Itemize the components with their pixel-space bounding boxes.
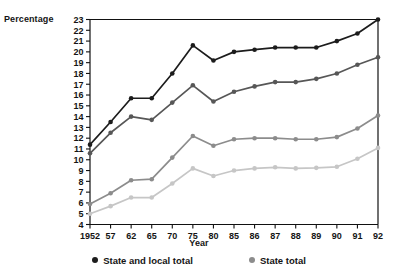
legend-marker-icon [92,257,98,263]
data-point [252,166,257,171]
legend-entry: State total [249,255,306,266]
data-point [149,96,154,101]
data-point [232,50,237,55]
data-point [252,136,257,141]
data-point [129,114,134,119]
data-point [108,130,113,135]
plot-area: 4567891011121314151617181920212223 19525… [0,0,398,269]
line-chart: Percentage 45678910111213141516171819202… [0,0,398,269]
data-point [88,211,93,216]
series-line-0 [90,20,378,145]
data-point [108,204,113,209]
data-point [170,100,175,105]
series-line-2 [90,116,378,204]
svg-text:6: 6 [78,198,83,208]
data-point [252,47,257,52]
data-point [314,137,319,142]
data-point [129,178,134,183]
data-point [355,126,360,131]
data-point [170,155,175,160]
svg-text:7: 7 [78,187,83,197]
data-point [376,55,381,60]
data-point [252,84,257,89]
x-axis-title: Year [0,238,398,248]
legend-label: State and local total [103,255,193,266]
legend-marker-icon [249,257,255,263]
data-point [88,142,93,147]
data-point [191,166,196,171]
data-point [149,118,154,123]
data-point [232,137,237,142]
svg-text:9: 9 [78,166,83,176]
data-point [335,39,340,44]
data-point [232,89,237,94]
svg-text:5: 5 [78,209,83,219]
legend-entry: State and local total [92,255,193,266]
svg-text:15: 15 [73,101,83,111]
data-point [88,151,93,156]
data-point [232,168,237,173]
svg-text:8: 8 [78,177,83,187]
svg-text:22: 22 [73,26,83,36]
data-point [376,146,381,151]
data-point [149,177,154,182]
svg-text:14: 14 [73,112,83,122]
data-point [293,45,298,50]
data-point [273,165,278,170]
data-point [355,31,360,36]
data-point [108,120,113,125]
data-point [149,195,154,200]
data-point [88,202,93,207]
data-point [211,58,216,63]
data-point [314,166,319,171]
data-point [376,17,381,22]
data-point [211,174,216,179]
data-point [211,143,216,148]
svg-text:13: 13 [73,123,83,133]
legend-row: State and local totalState total [0,252,398,268]
data-series-layer [88,17,381,216]
data-point [273,45,278,50]
data-point [293,166,298,171]
svg-text:16: 16 [73,90,83,100]
data-point [314,45,319,50]
svg-text:18: 18 [73,69,83,79]
y-axis-ticks: 4567891011121314151617181920212223 [73,15,90,230]
data-point [314,77,319,82]
data-point [191,83,196,88]
svg-text:11: 11 [74,144,84,154]
data-point [273,136,278,141]
data-point [273,80,278,85]
chart-legend: State and local totalState total [0,252,398,269]
data-point [335,71,340,76]
data-point [129,195,134,200]
data-point [211,99,216,104]
svg-text:17: 17 [73,80,83,90]
data-point [355,63,360,68]
legend-label: State total [260,255,306,266]
data-point [129,96,134,101]
svg-text:12: 12 [73,133,83,143]
data-point [170,71,175,76]
data-point [355,156,360,161]
data-point [293,80,298,85]
data-point [191,43,196,48]
svg-text:20: 20 [73,47,83,57]
svg-text:23: 23 [73,15,83,25]
data-point [170,181,175,186]
data-point [335,135,340,140]
svg-text:10: 10 [73,155,83,165]
data-point [335,164,340,169]
data-point [376,113,381,118]
svg-text:4: 4 [78,220,83,230]
data-point [191,134,196,139]
svg-text:19: 19 [73,58,83,68]
svg-text:21: 21 [73,36,83,46]
data-point [108,191,113,196]
data-point [293,137,298,142]
